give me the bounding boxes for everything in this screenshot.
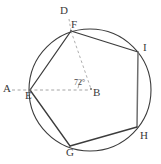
angle-label-72: 72° [74,79,85,87]
point-label-F: F [71,19,77,30]
point-label-G: G [66,147,74,158]
point-label-B: B [93,87,100,98]
segment-HG [70,127,137,146]
segment-IH [137,52,138,127]
segment-FI [71,31,138,52]
point-label-E: E [25,90,32,101]
center-point-B [90,88,92,90]
point-label-A: A [3,83,11,94]
vertex-point-F [70,30,72,32]
point-label-H: H [140,130,148,141]
point-label-I: I [143,42,147,53]
geometry-figure: A B D E F G H I 72° [0,0,161,164]
point-label-D: D [60,5,68,16]
